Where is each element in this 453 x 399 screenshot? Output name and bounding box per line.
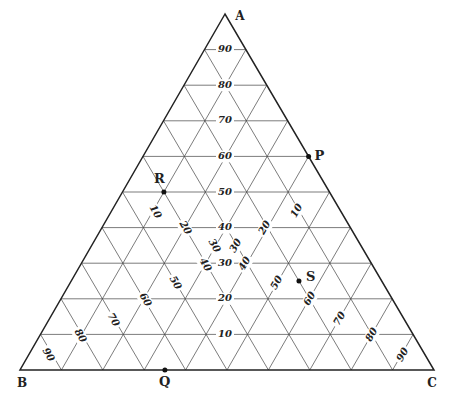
a-axis-label: 30 <box>218 257 232 268</box>
point-s <box>296 279 301 284</box>
point-label-s: S <box>306 269 315 284</box>
a-axis-label: 80 <box>218 79 232 90</box>
vertex-label-b: B <box>17 376 27 390</box>
a-axis-label: 90 <box>218 43 232 54</box>
vertex-label-c: C <box>427 376 437 390</box>
axis-labels: 1020304050607080901020304050607080901020… <box>38 43 412 366</box>
point-label-q: Q <box>159 374 170 389</box>
a-axis-label: 40 <box>218 221 232 232</box>
a-axis-label: 60 <box>218 150 232 161</box>
a-axis-label: 10 <box>218 328 232 339</box>
a-axis-label: 20 <box>217 292 232 303</box>
point-p <box>306 154 311 159</box>
grid-lines <box>41 50 414 370</box>
point-q <box>162 368 167 373</box>
point-label-p: P <box>315 148 325 163</box>
a-axis-label: 70 <box>218 114 232 125</box>
point-label-r: R <box>154 171 165 186</box>
a-axis-label: 50 <box>218 186 232 197</box>
point-r <box>161 190 166 195</box>
vertex-label-a: A <box>234 9 245 23</box>
ternary-diagram: 1020304050607080901020304050607080901020… <box>0 0 453 399</box>
